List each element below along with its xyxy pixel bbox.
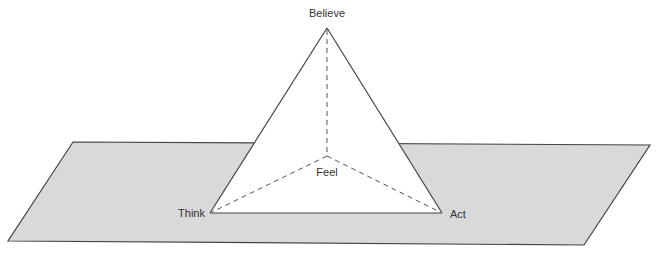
pyramid-face [210,28,442,213]
label-believe: Believe [309,7,345,19]
label-think: Think [178,207,205,219]
pyramid-diagram: Believe Feel Think Act [0,0,657,258]
label-act: Act [450,208,466,220]
label-feel: Feel [316,166,337,178]
